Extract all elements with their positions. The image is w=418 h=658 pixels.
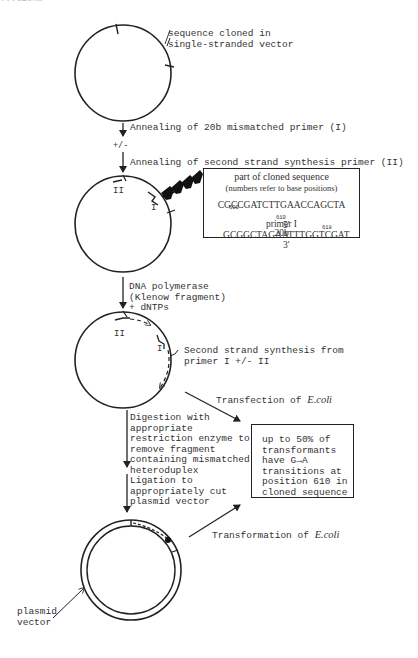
second-strand-synthesis-circle [75,311,178,408]
sequence-box-title: part of cloned sequence [204,172,359,182]
digestion-step-label: Digestion with appropriate restriction e… [130,413,250,477]
optional-marker: +/- [113,141,128,152]
result-line: up to 50% of [262,435,353,446]
plasmid-vector-label: plasmid vector [17,607,57,628]
primer-one-marker: I [151,203,156,214]
ligation-step-label: Ligation to appropriately cut plasmid ve… [130,476,227,508]
primer-one-marker-2: I [157,344,162,355]
top-strand-sequence: CGCCGATCTTGAACCAGCTA [204,200,359,210]
pointer-arrows-icon [161,170,203,200]
diagram-canvas [0,0,418,658]
organism-name: E.coli [307,394,332,405]
transformation-label: Transformation of E.coli [212,530,339,542]
primer-length: 20b [204,228,359,238]
single-stranded-vector-circle [75,24,174,121]
annealing-primer-two-label: Annealing of second strand synthesis pri… [130,158,404,169]
result-line: cloned sequence [262,488,353,499]
result-box: up to 50% of transformants have G→A tran… [251,424,354,498]
recombinant-plasmid-circle [81,520,181,620]
primer-two-marker: II [113,186,124,197]
second-strand-label: Second strand synthesis from primer I +/… [184,346,344,367]
sequence-box-subtitle: (numbers refer to base positions) [204,183,359,193]
cloned-sequence-box: part of cloned sequence (numbers refer t… [203,168,360,238]
annealed-primers-circle [75,175,175,272]
annealing-primer-one-label: Annealing of 20b mismatched primer (I) [130,123,347,134]
vector-sequence-label: sequence cloned in single-stranded vecto… [168,29,293,50]
organism-name-2: E.coli [315,529,340,540]
polymerase-step-label: DNA polymerase (Klenow fragment) + dNTPs [129,282,226,314]
primer-two-marker-2: II [114,329,125,340]
plasmid-label-pointer [53,588,84,618]
transfection-label: Transfection of E.coli [216,395,332,407]
